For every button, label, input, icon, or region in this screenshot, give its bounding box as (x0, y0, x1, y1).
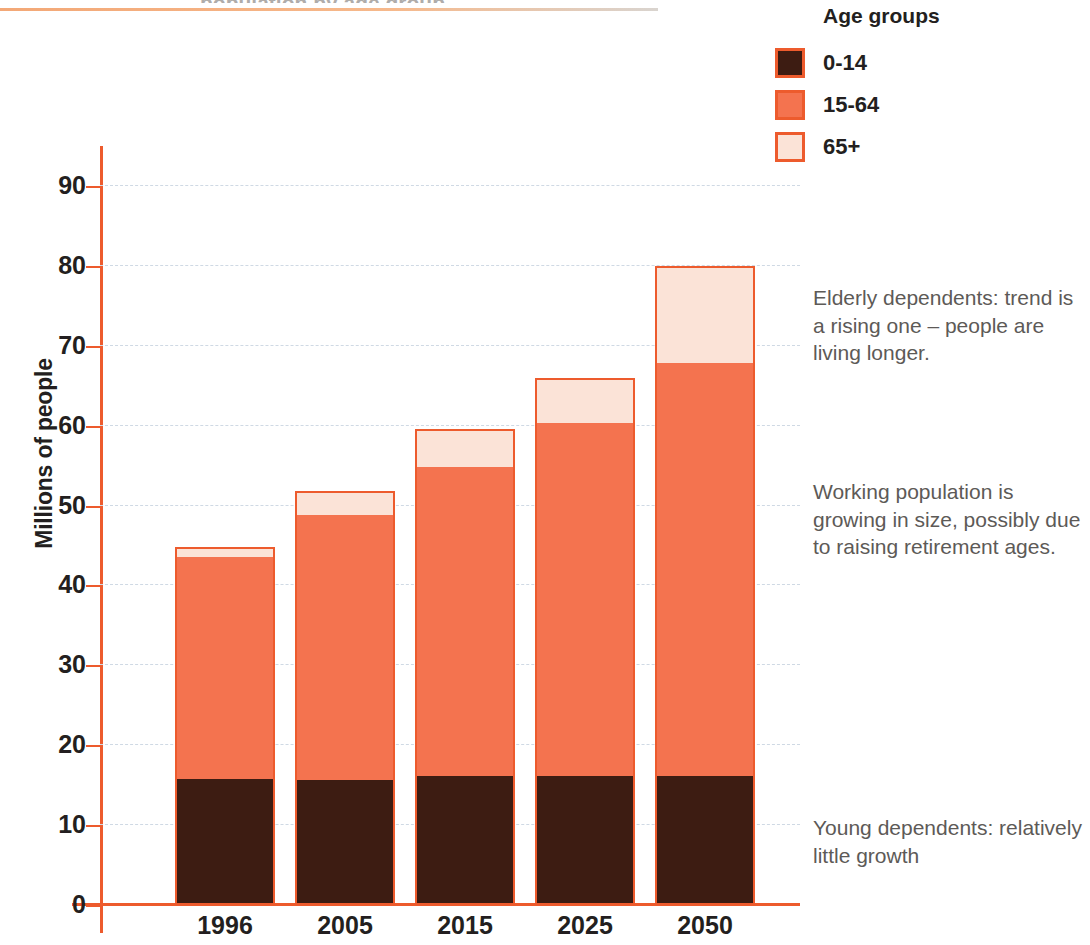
x-axis-label-1996: 1996 (155, 911, 295, 940)
bar-1996[interactable] (175, 547, 275, 905)
y-tick-stub-80 (86, 266, 100, 268)
y-tick-label-90: 90 (6, 171, 86, 200)
y-tick-stub-20 (86, 745, 100, 747)
y-tick-stub-40 (86, 585, 100, 587)
x-axis-label-2015: 2015 (395, 911, 535, 940)
y-tick-label-30: 30 (6, 650, 86, 679)
legend-label-0-14: 0-14 (823, 50, 867, 76)
bar-segment-2005-15-64[interactable] (295, 515, 395, 780)
x-axis-label-2005: 2005 (275, 911, 415, 940)
bar-2015[interactable] (415, 429, 515, 905)
plot-area: 0102030405060708090 19962005201520252050 (100, 146, 800, 905)
y-tick-label-60: 60 (6, 411, 86, 440)
x-axis-label-2025: 2025 (515, 911, 655, 940)
bar-segment-2025-15-64[interactable] (535, 423, 635, 776)
bar-segment-1996-65+[interactable] (175, 547, 275, 557)
legend-label-65+: 65+ (823, 134, 860, 160)
annotation-elderly-dependents: Elderly dependents: trend is a rising on… (813, 284, 1085, 367)
bar-segment-1996-15-64[interactable] (175, 557, 275, 778)
legend-title: Age groups (823, 4, 1075, 28)
y-tick-stub-0 (86, 905, 100, 907)
bar-2025[interactable] (535, 378, 635, 905)
legend-label-15-64: 15-64 (823, 92, 879, 118)
y-axis-title: Millions of people (31, 324, 58, 584)
bar-segment-2015-15-64[interactable] (415, 467, 515, 776)
legend-item-65+[interactable]: 65+ (775, 126, 1075, 168)
stacked-bar-chart: Millions of people 0102030405060708090 1… (0, 0, 800, 945)
legend-swatch-0-14 (775, 48, 805, 78)
bar-2005[interactable] (295, 491, 395, 905)
y-tick-label-0: 0 (6, 890, 86, 919)
y-axis-line (100, 146, 103, 905)
y-tick-stub-10 (86, 825, 100, 827)
bar-segment-2050-0-14[interactable] (655, 776, 755, 905)
y-tick-stub-60 (86, 426, 100, 428)
legend-rows: 0-1415-6465+ (775, 42, 1075, 168)
y-tick-stub-70 (86, 346, 100, 348)
y-tick-label-10: 10 (6, 810, 86, 839)
x-axis-label-2050: 2050 (635, 911, 775, 940)
y-tick-stub-30 (86, 665, 100, 667)
gridline-90: 90 (100, 185, 800, 186)
legend-swatch-65+ (775, 132, 805, 162)
y-tick-label-50: 50 (6, 491, 86, 520)
bar-segment-2015-65+[interactable] (415, 429, 515, 467)
bar-segment-1996-0-14[interactable] (175, 779, 275, 905)
bar-segment-2005-0-14[interactable] (295, 780, 395, 905)
legend-swatch-15-64 (775, 90, 805, 120)
annotation-working-population: Working population is growing in size, p… (813, 478, 1085, 561)
bar-segment-2050-15-64[interactable] (655, 363, 755, 776)
bar-segment-2025-65+[interactable] (535, 378, 635, 424)
bar-segment-2015-0-14[interactable] (415, 776, 515, 905)
bar-2050[interactable] (655, 266, 755, 905)
y-tick-stub-50 (86, 506, 100, 508)
bar-segment-2050-65+[interactable] (655, 266, 755, 363)
y-tick-label-40: 40 (6, 570, 86, 599)
y-tick-stub-90 (86, 186, 100, 188)
bar-segment-2005-65+[interactable] (295, 491, 395, 515)
y-tick-label-70: 70 (6, 331, 86, 360)
y-tick-label-20: 20 (6, 730, 86, 759)
y-tick-label-80: 80 (6, 251, 86, 280)
legend-item-15-64[interactable]: 15-64 (775, 84, 1075, 126)
legend: Age groups 0-1415-6465+ (775, 4, 1075, 168)
annotation-young-dependents: Young dependents: relatively little grow… (813, 814, 1085, 869)
bar-segment-2025-0-14[interactable] (535, 776, 635, 905)
legend-item-0-14[interactable]: 0-14 (775, 42, 1075, 84)
